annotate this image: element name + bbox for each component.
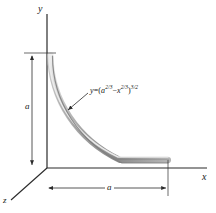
curve-tube-highlight — [50, 55, 169, 157]
curve-equation-label: y=(a2/3−x2/3)3/2 — [90, 84, 138, 95]
curve-tube-shadow — [53, 56, 169, 163]
y-axis-label: y — [38, 4, 42, 14]
vertical-dimension-label: a — [24, 101, 31, 112]
z-axis-label: z — [3, 196, 7, 205]
equation-leader-arrow — [68, 93, 88, 110]
curve-tube-body — [51, 55, 169, 160]
z-axis-line — [11, 168, 47, 200]
equation-exponent-3: 3/2 — [131, 84, 138, 90]
figure-canvas: y x z a a y=(a2/3−x2/3)3/2 — [0, 0, 216, 213]
equation-exponent-2: 2/3 — [121, 84, 128, 90]
horizontal-dimension-label: a — [105, 183, 114, 192]
x-axis-label: x — [202, 172, 206, 182]
